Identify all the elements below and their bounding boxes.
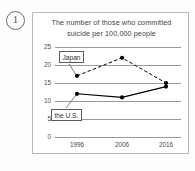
data-point-japan-2006 [120,56,124,60]
data-point-us-2006 [120,95,124,99]
annotation-label-japan: Japan [59,51,84,63]
data-point-us-2016 [164,85,168,89]
worksheet-page: 1 The number of those who committed suic… [0,0,195,171]
series-lines [33,13,190,155]
chart-frame: The number of those who committed suicid… [32,12,189,154]
leader-line-us [66,95,76,108]
data-point-japan-2016 [164,81,168,85]
series-line-japan [77,58,166,83]
annotation-label-us: the U.S. [51,109,82,121]
plot-area: 25 20 15 10 5 0 1996 2006 2016 [33,13,190,155]
leader-line-japan [69,64,76,75]
question-number: 1 [6,11,25,30]
